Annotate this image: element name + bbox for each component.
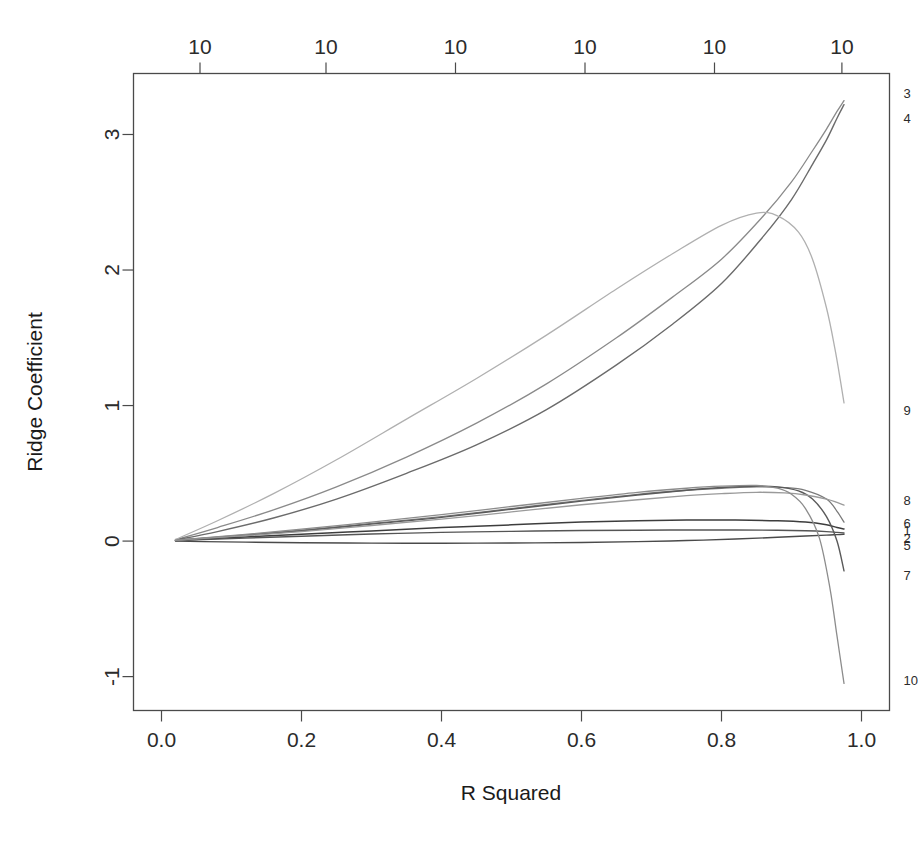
x-axis-tick-label: 0.4: [427, 728, 457, 751]
top-axis-tick-label: 10: [314, 35, 337, 58]
series-label-9: 9: [904, 403, 911, 418]
series-label-3: 3: [904, 86, 911, 101]
top-axis-tick-label: 10: [444, 35, 467, 58]
x-axis-tick-label: 1.0: [847, 728, 876, 751]
y-axis-tick-label: 1: [100, 400, 123, 412]
series-label-10: 10: [904, 673, 918, 688]
x-axis-tick-label: 0.2: [287, 728, 316, 751]
y-axis-title: Ridge Coefficient: [23, 312, 46, 472]
x-axis-tick-label: 0.0: [147, 728, 176, 751]
top-axis-tick-label: 10: [703, 35, 726, 58]
y-axis-tick-label: -1: [100, 667, 123, 686]
ridge-trace-chart: 101010101010 -10123 0.00.20.40.60.81.0 1…: [0, 0, 918, 843]
y-axis-tick-label: 0: [100, 535, 123, 547]
series-label-4: 4: [904, 111, 911, 126]
x-axis-tick-label: 0.8: [707, 728, 736, 751]
series-label-6: 6: [904, 516, 911, 531]
top-axis-tick-label: 10: [188, 35, 211, 58]
x-axis-tick-label: 0.6: [567, 728, 596, 751]
ridge-trace-figure: 101010101010 -10123 0.00.20.40.60.81.0 1…: [0, 0, 918, 843]
x-axis-title: R Squared: [461, 781, 561, 804]
y-axis-tick-label: 2: [100, 264, 123, 276]
y-axis-tick-label: 3: [100, 129, 123, 141]
top-axis-tick-label: 10: [573, 35, 596, 58]
chart-background: [0, 0, 918, 843]
top-axis-tick-label: 10: [830, 35, 853, 58]
series-label-8: 8: [904, 493, 911, 508]
series-label-7: 7: [904, 568, 911, 583]
series-label-5: 5: [904, 538, 911, 553]
